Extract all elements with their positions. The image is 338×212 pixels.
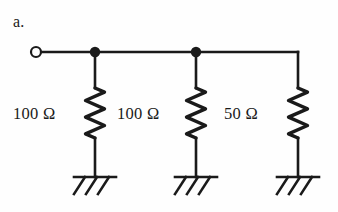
resistor-1-value-label: 100 Ω	[13, 106, 56, 123]
branch-3-ground-hatch-2	[289, 177, 300, 194]
resistor-3-value-label: 50 Ω	[224, 106, 258, 123]
branch-2-ground-hatch-3	[199, 177, 210, 194]
ground-group	[74, 177, 319, 194]
branch-2-ground-hatch-1	[175, 177, 186, 194]
branch-2-resistor-symbol	[187, 88, 206, 138]
figure-part-label: a.	[13, 14, 25, 30]
circuit-diagram-canvas: a. 100 Ω 100 Ω 50 Ω	[0, 0, 338, 212]
branch-1-ground-hatch-2	[86, 177, 97, 194]
resistor-2-value-label: 100 Ω	[117, 106, 160, 123]
junction-node-2	[191, 47, 201, 57]
branch-3-ground-hatch-1	[277, 177, 288, 194]
branch-1-resistor-symbol	[86, 88, 105, 138]
branch-1-ground-hatch-1	[74, 177, 85, 194]
branch-2-ground-hatch-2	[187, 177, 198, 194]
wire-group	[41, 52, 298, 177]
terminal-group	[31, 47, 41, 57]
branch-3-ground-hatch-3	[301, 177, 312, 194]
branch-3-resistor-symbol	[289, 88, 308, 138]
open-terminal	[31, 47, 41, 57]
branch-1-ground-hatch-3	[98, 177, 109, 194]
junction-node-1	[90, 47, 100, 57]
